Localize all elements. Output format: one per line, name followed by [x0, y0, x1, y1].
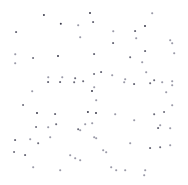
scatter-point [144, 50, 146, 52]
scatter-point [32, 166, 34, 168]
scatter-point [87, 111, 89, 113]
scatter-point [171, 42, 173, 44]
scatter-point [149, 82, 151, 84]
scatter-point [123, 81, 125, 83]
scatter-point [141, 61, 143, 63]
scatter-point [54, 113, 56, 115]
scatter-point [73, 81, 75, 83]
scatter-point [157, 127, 159, 129]
scatter-point [14, 62, 16, 64]
scatter-point [79, 36, 81, 38]
scatter-point [14, 53, 16, 55]
scatter-point [61, 76, 63, 78]
scatter-point [37, 142, 39, 144]
scatter-point [43, 14, 45, 16]
plot-area [0, 0, 188, 185]
scatter-point [93, 73, 95, 75]
scatter-point [135, 37, 137, 39]
scatter-point [161, 81, 163, 83]
scatter-point [173, 52, 175, 54]
scatter-point [49, 136, 51, 138]
scatter-point [74, 157, 76, 159]
scatter-point [133, 83, 135, 85]
scatter-point [124, 169, 126, 171]
scatter-point [93, 86, 95, 88]
scatter-point [112, 42, 114, 44]
scatter-point [165, 91, 167, 93]
scatter-point [133, 119, 135, 121]
scatter-point [93, 53, 95, 55]
scatter-point [115, 169, 117, 171]
scatter-point [59, 169, 61, 171]
scatter-point [171, 104, 173, 106]
scatter-point [32, 57, 34, 59]
scatter-point [13, 151, 15, 153]
scatter-point [124, 78, 126, 80]
scatter-point [95, 137, 97, 139]
scatter-point [36, 112, 38, 114]
scatter-point [91, 90, 93, 92]
scatter-point [144, 169, 146, 171]
scatter-point [57, 55, 59, 57]
scatter-point [59, 81, 61, 83]
scatter-point [14, 139, 16, 141]
scatter-point [29, 138, 31, 140]
scatter-point [110, 166, 112, 168]
scatter-point [163, 111, 165, 113]
scatter-point [144, 25, 146, 27]
scatter-point [114, 113, 116, 115]
scatter-point [60, 23, 62, 25]
scatter-point [169, 144, 171, 146]
scatter-point [47, 76, 49, 78]
scatter-point [171, 80, 173, 82]
scatter-point [145, 71, 147, 73]
scatter-point [95, 112, 97, 114]
scatter-point [129, 56, 131, 58]
scatter-point [153, 113, 155, 115]
scatter-point [151, 12, 153, 14]
scatter-point [79, 159, 81, 161]
scatter-point [22, 104, 24, 106]
scatter-point [100, 71, 102, 73]
scatter-point [24, 154, 26, 156]
scatter-point [169, 39, 171, 41]
scatter-point [69, 154, 71, 156]
scatter-point [82, 80, 84, 82]
scatter-point [171, 84, 173, 86]
scatter-point [74, 77, 76, 79]
scatter-point [47, 126, 49, 128]
scatter-point [55, 123, 57, 125]
scatter-point [91, 122, 93, 124]
scatter-point [134, 30, 136, 32]
scatter-point [143, 174, 145, 176]
scatter-point [77, 24, 79, 26]
scatter-point [35, 126, 37, 128]
scatter-point [89, 12, 91, 14]
scatter-point [102, 149, 104, 151]
scatter-point [84, 123, 86, 125]
scatter-point [15, 31, 17, 33]
scatter-point [111, 74, 113, 76]
scatter-point [149, 147, 151, 149]
scatter-point [47, 81, 49, 83]
scatter-point [129, 142, 131, 144]
scatter-point [92, 21, 94, 23]
scatter-point [31, 90, 33, 92]
scatter-point [169, 127, 171, 129]
scatter-point [159, 146, 161, 148]
scatter-point [153, 79, 155, 81]
scatter-plot-figure [0, 0, 188, 185]
scatter-point [105, 151, 107, 153]
scatter-point [159, 124, 161, 126]
scatter-point [112, 30, 114, 32]
scatter-point [79, 129, 81, 131]
scatter-point [95, 99, 97, 101]
